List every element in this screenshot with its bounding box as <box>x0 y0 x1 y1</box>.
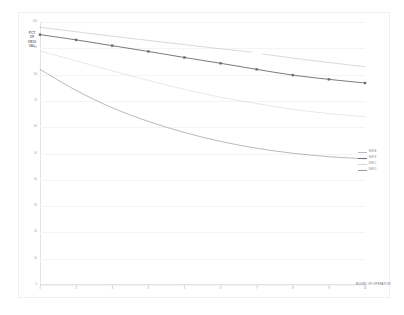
series-line <box>40 69 365 158</box>
series-marker <box>219 62 221 64</box>
y-axis-title: PCTOFORIGVAL <box>24 31 40 49</box>
legend-swatch-icon <box>358 152 367 153</box>
series-layer <box>40 22 365 285</box>
series-marker <box>364 82 366 84</box>
y-tick-label: 70 <box>34 100 37 103</box>
x-tick-label: 2 <box>75 288 76 291</box>
legend-swatch-icon <box>358 164 367 165</box>
x-tick-label: 8 <box>292 288 293 291</box>
series-marker <box>111 44 113 46</box>
series-marker <box>328 78 330 80</box>
series-marker <box>292 74 294 76</box>
series-line <box>40 27 252 52</box>
legend-label: SER B <box>369 157 377 160</box>
chart-legend: SER ASER BSER CSER D <box>358 149 392 173</box>
legend-swatch-icon <box>358 158 367 159</box>
legend-label: SER C <box>369 163 377 166</box>
y-tick-label: 30 <box>34 205 37 208</box>
x-tick-label: 5 <box>184 288 185 291</box>
series-marker <box>255 68 257 70</box>
x-tick-label: 10 <box>364 288 367 291</box>
x-tick-label: 6 <box>220 288 221 291</box>
y-tick-label: 10 <box>34 257 37 260</box>
legend-swatch-icon <box>358 170 367 171</box>
y-tick-label: 60 <box>34 126 37 129</box>
gridline <box>40 285 365 286</box>
y-tick-label: 90 <box>34 47 37 50</box>
series-marker <box>39 33 41 35</box>
y-tick-label: 100 <box>33 21 37 24</box>
y-tick-label: 0 <box>36 284 37 287</box>
y-tick-label: 80 <box>34 73 37 76</box>
series-marker <box>147 50 149 52</box>
series-marker <box>75 39 77 41</box>
plot-area: 0102030405060708090100 12345678910 <box>40 22 365 285</box>
legend-item[interactable]: SER D <box>358 167 392 173</box>
series-marker <box>183 56 185 58</box>
legend-label: SER D <box>369 169 377 172</box>
legend-label: SER A <box>369 151 377 154</box>
x-tick-label: 3 <box>111 288 112 291</box>
x-tick-label: 7 <box>256 288 257 291</box>
y-tick-label: 20 <box>34 231 37 234</box>
x-tick-label: 4 <box>148 288 149 291</box>
x-axis-title: ROUND OF OPERATION <box>356 283 391 286</box>
y-tick-label: 40 <box>34 179 37 182</box>
x-tick-label: 9 <box>328 288 329 291</box>
y-tick-label: 50 <box>34 152 37 155</box>
series-line <box>40 35 365 83</box>
series-line <box>263 54 365 67</box>
x-tick-label: 1 <box>39 288 40 291</box>
chart-figure: PCTOFORIGVAL 0102030405060708090100 1234… <box>0 0 404 315</box>
y-axis-title-line: VAL <box>24 44 40 48</box>
